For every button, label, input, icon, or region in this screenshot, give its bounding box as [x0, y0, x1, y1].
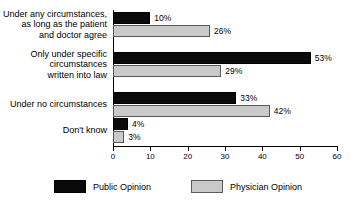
category-label-2: Under no circumstances: [10, 99, 107, 110]
axis-tick-label: 50: [295, 152, 304, 162]
bar-value-label: 3%: [128, 131, 140, 143]
axis-tick-label: 60: [333, 152, 342, 162]
bar-0-0: [113, 12, 150, 24]
legend-label: Public Opinion: [93, 182, 151, 192]
bar-value-label: 10%: [154, 12, 171, 24]
axis-tick-label: 40: [258, 152, 267, 162]
axis-tick: [262, 147, 263, 151]
bar-0-3: [113, 118, 128, 130]
bar-value-label: 26%: [214, 25, 231, 37]
axis-tick: [337, 147, 338, 151]
bar-0-2: [113, 92, 236, 104]
category-label-3: Don't know: [63, 125, 107, 136]
axis-tick-label: 20: [183, 152, 192, 162]
legend-swatch-icon: [54, 180, 86, 193]
bar-value-label: 4%: [132, 118, 144, 130]
plot-area: 10%26%53%29%33%42%4%3%: [113, 10, 337, 146]
axis-tick: [113, 147, 114, 151]
bar-1-2: [113, 105, 270, 117]
axis-tick: [300, 147, 301, 151]
axis-tick: [188, 147, 189, 151]
axis-tick-label: 0: [111, 152, 115, 162]
axis-tick-label: 30: [221, 152, 230, 162]
bar-1-3: [113, 131, 124, 143]
bar-0-1: [113, 52, 311, 64]
axis-tick: [150, 147, 151, 151]
bar-1-0: [113, 25, 210, 37]
bar-value-label: 42%: [274, 105, 291, 117]
legend-label: Physician Opinion: [230, 182, 302, 192]
bar-value-label: 29%: [225, 65, 242, 77]
legend-item-0[interactable]: Public Opinion: [54, 180, 151, 193]
bar-1-1: [113, 65, 221, 77]
axis-tick-label: 10: [146, 152, 155, 162]
category-label-1: Only under specific circumstances writte…: [30, 49, 107, 81]
bar-value-label: 53%: [315, 52, 332, 64]
legend-item-1[interactable]: Physician Opinion: [191, 180, 302, 193]
chart-legend: Public OpinionPhysician Opinion: [0, 180, 356, 193]
category-label-0: Under any circumstances, as long as the …: [3, 9, 107, 41]
legend-swatch-icon: [191, 180, 223, 193]
bar-chart: 0102030405060 Under any circumstances, a…: [0, 0, 356, 210]
bar-value-label: 33%: [240, 92, 257, 104]
axis-tick: [225, 147, 226, 151]
